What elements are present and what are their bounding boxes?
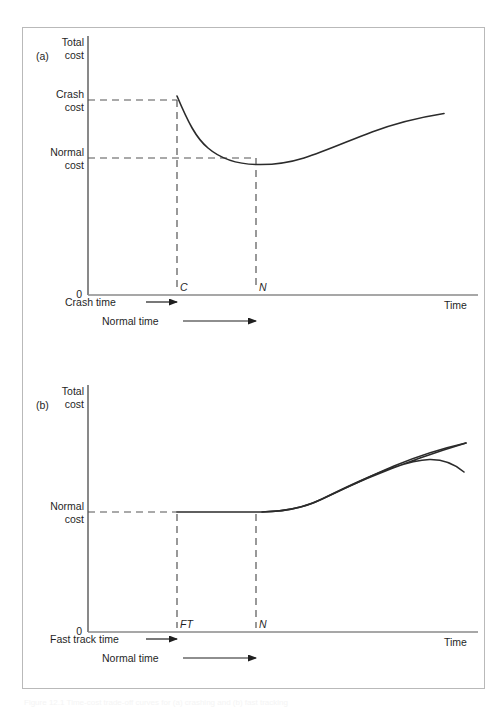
panel-b-tick-normal-cost-line2: cost [65,513,84,525]
panel-b-span-normal-time: Normal time [102,652,159,665]
figure-root: (a) Total cost Crash cost Normal cost 0 … [0,0,503,711]
panel-a-x-marker-n: N [259,281,267,294]
panel-a-cost-curve [177,96,444,165]
panel-a-guide-lines [88,100,256,290]
panel-a-y-axis-title-line1: Total [62,36,84,48]
panel-b-guide-lines [88,512,256,628]
panel-a-tick-crash-cost: Crash cost [4,88,84,113]
figure-caption: Figure 12.1 Time-cost trade-off curves f… [24,698,494,707]
panel-a-span-arrows [146,302,256,321]
panel-a-span-crash-time: Crash time [65,296,116,309]
panel-b-x-marker-n: N [259,618,267,631]
panel-b-span-arrows [146,639,256,658]
panel-b-y-axis-title: Total cost [4,385,84,410]
panel-b-cost-curve [177,443,466,512]
panel-b-tick-normal-cost-line1: Normal [50,500,84,512]
panel-a-tick-normal-cost-line2: cost [65,159,84,171]
panel-a-span-normal-time: Normal time [102,315,159,328]
panel-a-x-marker-c: C [180,281,188,294]
panel-a-x-axis-title: Time [444,299,467,312]
panel-a-axes [88,36,478,295]
panel-a-tick-crash-cost-line2: cost [65,101,84,113]
panel-a-tick-crash-cost-line1: Crash [56,88,84,100]
panel-a-y-axis-title-line2: cost [65,49,84,61]
panel-a-y-axis-title: Total cost [4,36,84,61]
panel-b-axes [88,385,478,632]
panel-a-tick-normal-cost-line1: Normal [50,146,84,158]
panel-b-y-axis-title-line2: cost [65,398,84,410]
panel-b-span-fast-track-time: Fast track time [50,633,119,646]
panel-b-y-axis-title-line1: Total [62,385,84,397]
panel-b-tick-normal-cost: Normal cost [4,500,84,525]
panel-b-x-axis-title: Time [444,636,467,649]
panel-b-x-marker-ft: FT [180,618,193,631]
panel-a-tick-normal-cost: Normal cost [4,146,84,171]
